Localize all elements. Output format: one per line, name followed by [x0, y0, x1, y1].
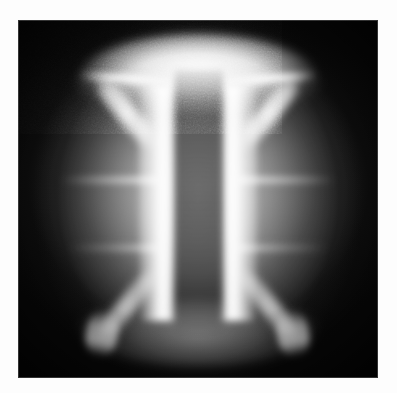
- photograph-plate[interactable]: [18, 20, 378, 378]
- film-grain-fine-texture: [18, 20, 282, 134]
- figure-root: [0, 0, 397, 393]
